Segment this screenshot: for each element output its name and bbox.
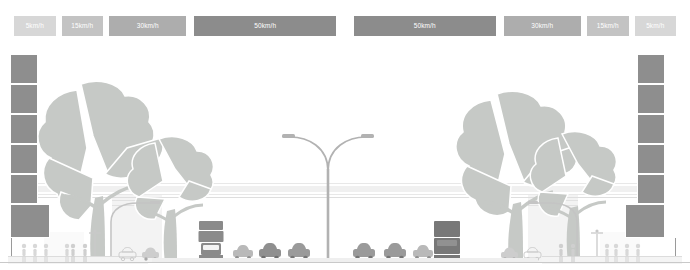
speed-segment-0[interactable]: 5km/h <box>14 16 56 36</box>
speed-segment-label: 30km/h <box>531 23 553 30</box>
tower-right <box>637 54 665 238</box>
tower-segment <box>637 174 665 204</box>
truck-left <box>197 221 225 262</box>
tower-segment <box>10 114 38 144</box>
speed-segment-7[interactable]: 5km/h <box>635 16 677 36</box>
tower-segment <box>637 144 665 174</box>
pedestrians-far-right <box>612 243 646 262</box>
speed-segment-label: 50km/h <box>254 23 276 30</box>
speed-segment-2[interactable]: 30km/h <box>109 16 186 36</box>
pedestrians-right-plaza <box>556 243 580 262</box>
tower-segment <box>637 84 665 114</box>
tower-segment <box>10 144 38 174</box>
car-service-left-1 <box>118 246 137 262</box>
speed-segment-5[interactable]: 30km/h <box>504 16 581 36</box>
tower-segment <box>10 84 38 114</box>
speed-segment-label: 50km/h <box>414 23 436 30</box>
speed-segment-4[interactable]: 50km/h <box>354 16 496 36</box>
speed-segment-3[interactable]: 50km/h <box>194 16 336 36</box>
speed-segment-1[interactable]: 15km/h <box>62 16 104 36</box>
speed-segment-label: 5km/h <box>646 23 664 30</box>
pedestrians-left-plaza <box>68 243 92 262</box>
speed-segment-label: 30km/h <box>137 23 159 30</box>
ground-line <box>0 262 690 263</box>
tower-segment <box>10 54 38 84</box>
speed-segment-label: 5km/h <box>26 23 44 30</box>
speed-segment-6[interactable]: 15km/h <box>587 16 629 36</box>
street-section-diagram: 5km/h15km/h30km/h50km/h50km/h30km/h15km/… <box>0 0 690 270</box>
speed-segment-label: 15km/h <box>597 23 619 30</box>
tower-base <box>625 204 665 238</box>
truck-right <box>432 220 462 262</box>
tower-segment <box>637 54 665 84</box>
tower-segment <box>637 114 665 144</box>
speed-legend-bar: 5km/h15km/h30km/h50km/h50km/h30km/h15km/… <box>14 16 676 36</box>
tower-segment <box>10 174 38 204</box>
speed-segment-label: 15km/h <box>71 23 93 30</box>
pedestrians-far-left <box>20 243 54 262</box>
